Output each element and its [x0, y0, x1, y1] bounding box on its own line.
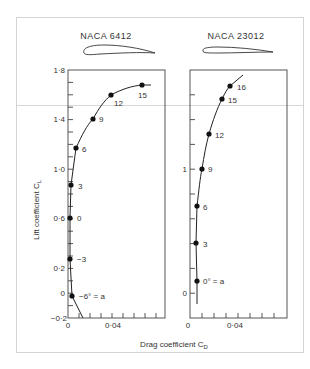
x-tick-0-04: 0·04: [105, 321, 122, 330]
label-alpha-0: 0° = a: [203, 277, 225, 286]
right-y-ticks: [190, 95, 195, 293]
label-alpha-9: 9: [208, 165, 213, 174]
label-alpha-9: 9: [99, 115, 104, 124]
label-alpha-15: 15: [138, 91, 147, 100]
left-x-ticks: [79, 313, 156, 318]
right-y-tick-0: 0: [183, 289, 188, 298]
right-x-ticks: [202, 313, 274, 318]
y-tick-0: 0: [61, 289, 66, 298]
label-alpha-12: 12: [114, 99, 123, 108]
y-tick-0-6: 0·6: [53, 214, 65, 223]
right-y-tick-1: 1: [183, 165, 188, 174]
label-alpha-6: 6: [82, 145, 87, 154]
label-alpha-3: 3: [78, 182, 83, 191]
chart-figure: NACA 6412 NACA 23012 1·8 1·4 1·0 0·6 0·2…: [0, 0, 310, 369]
label-alpha-6: 6: [203, 203, 208, 212]
right-plot: 1 0 0 0·04 0° = a 3 6 9 12 15 16: [183, 70, 287, 330]
right-polar-curve: [196, 75, 243, 304]
label-alpha-minus-6: −6° = a: [79, 292, 105, 301]
y-tick-1-4: 1·4: [53, 115, 65, 124]
label-alpha-16: 16: [237, 83, 246, 92]
label-alpha-minus-3: −3: [77, 255, 87, 264]
right-point-labels: 0° = a 3 6 9 12 15 16: [203, 83, 246, 286]
y-tick-1-0: 1·0: [53, 165, 65, 174]
right-x-tick-0-04: 0·04: [227, 321, 244, 330]
y-tick-0-2: 0·2: [53, 264, 65, 273]
left-title: NACA 6412: [80, 31, 132, 41]
left-point-labels: −6° = a −3 0 3 6 9 12 15: [77, 91, 147, 301]
x-tick-0: 0: [66, 321, 71, 330]
label-alpha-3: 3: [203, 240, 208, 249]
y-tick-1-8: 1·8: [53, 66, 65, 75]
x-axis-title: Drag coefficient CD: [140, 340, 208, 350]
label-alpha-12: 12: [215, 131, 224, 140]
label-alpha-15: 15: [228, 96, 237, 105]
right-title: NACA 23012: [207, 31, 264, 41]
right-x-tick-0: 0: [186, 321, 191, 330]
left-polar-curve: [70, 85, 151, 318]
label-alpha-0: 0: [77, 214, 82, 223]
y-axis-title: Lift coefficient CL: [32, 179, 42, 240]
naca-23012-airfoil-icon: [203, 47, 273, 53]
left-y-tick-labels: 1·8 1·4 1·0 0·6 0·2 0 −0·2: [51, 66, 68, 323]
naca-6412-airfoil-icon: [84, 45, 155, 55]
